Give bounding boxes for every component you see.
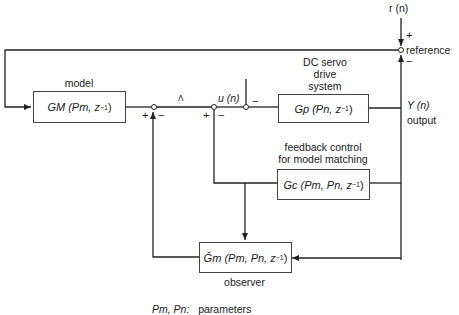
plant-block[interactable]: Gp (Pn, z−1) [278,94,369,123]
footnote: Pm, Pn: parameters [152,303,251,315]
control-summing-junction [212,105,217,110]
reference-summing-junction [399,48,404,53]
reference-plus-sign: + [406,30,412,41]
small-mark: ᐱ [178,93,183,105]
plant-input-junction [244,105,249,110]
control-signal-label: u (n) [218,92,240,104]
reference-minus-sign: − [406,56,412,67]
controller-block[interactable]: Gc (Pm, Pn, z−1) [277,169,370,200]
controller-label: Gc (Pm, Pn, z [283,179,351,191]
model-caption: model [33,77,125,89]
observer-block[interactable]: Ĝm (Pm, Pn, z−1) [199,242,292,273]
plant-caption: DC servo drive system [290,56,360,92]
block-diagram: r (n) + reference − model GM (Pm, z−1) +… [0,0,459,315]
controller-caption: feedback control for model matching [268,141,378,165]
footnote-text: parameters [198,303,251,315]
j1-plus-sign: + [142,110,148,121]
observer-label: Ĝm (Pm, Pn, z [204,252,276,264]
reference-input-label: r (n) [389,2,408,14]
observer-caption: observer [199,276,290,288]
j1-minus-sign: − [158,110,164,121]
footnote-symbols: Pm, Pn: [152,303,189,315]
j2-minus-sign: − [218,110,224,121]
model-label: GM (Pm, z [47,101,100,113]
reference-label: reference [406,44,450,56]
output-symbol: Y (n) [407,99,430,111]
plant-label: Gp (Pn, z [294,103,340,115]
model-block[interactable]: GM (Pm, z−1) [33,91,126,123]
j2-plus-sign: + [203,110,209,121]
j3-minus-sign: − [252,96,258,107]
output-label: output [407,114,436,126]
model-summing-junction [152,105,157,110]
